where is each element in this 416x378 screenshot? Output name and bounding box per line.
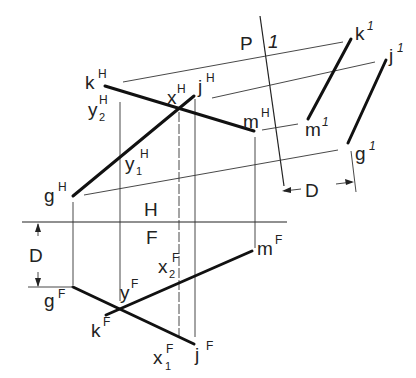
svg-text:m: m: [257, 238, 273, 259]
svg-text:g: g: [355, 143, 366, 164]
svg-text:g: g: [44, 290, 55, 311]
svg-text:j: j: [194, 344, 199, 365]
svg-text:1: 1: [136, 165, 142, 177]
fold-label-p: P: [240, 33, 253, 54]
dimension-d-aux-label: D: [305, 180, 319, 201]
line-k-m-auxiliary-view: [308, 39, 351, 119]
svg-text:F: F: [58, 287, 65, 301]
svg-text:k: k: [85, 72, 95, 93]
label-m-f: m F: [257, 233, 282, 259]
svg-text:y: y: [88, 99, 98, 120]
fold-label-1: 1: [268, 31, 279, 52]
svg-text:j: j: [197, 76, 202, 97]
dimension-d-aux: D: [282, 151, 356, 201]
svg-text:H: H: [99, 93, 108, 107]
descriptive-geometry-diagram: D D H F P 1 k H y 2 H x H j H y 1 H m H …: [0, 0, 416, 378]
svg-text:F: F: [172, 251, 179, 265]
label-g-h: g H: [44, 180, 67, 206]
dimension-d-front-label: D: [29, 245, 43, 266]
svg-text:H: H: [261, 106, 270, 120]
label-k-f: k F: [91, 315, 110, 341]
svg-text:y: y: [125, 153, 135, 174]
label-j-1: j 1: [388, 41, 404, 66]
label-k-1: k 1: [355, 19, 374, 44]
svg-text:F: F: [166, 342, 173, 356]
svg-text:1: 1: [367, 19, 374, 33]
svg-text:y: y: [120, 282, 130, 303]
fold-label-f: F: [146, 227, 158, 248]
svg-text:m: m: [305, 119, 321, 140]
label-j-h: j H: [197, 71, 215, 97]
label-y2-h: y 2 H: [88, 93, 108, 123]
svg-text:F: F: [103, 315, 110, 329]
svg-text:F: F: [131, 277, 138, 291]
svg-text:x: x: [158, 256, 168, 277]
svg-text:x: x: [167, 87, 177, 108]
svg-text:2: 2: [169, 268, 175, 280]
svg-text:F: F: [206, 339, 213, 353]
svg-text:1: 1: [369, 139, 376, 153]
svg-text:H: H: [140, 147, 149, 161]
svg-text:g: g: [44, 185, 55, 206]
svg-text:2: 2: [99, 111, 105, 123]
svg-text:1: 1: [397, 41, 404, 55]
svg-text:H: H: [177, 82, 186, 96]
label-j-f: j F: [194, 339, 213, 365]
label-m-h: m H: [243, 106, 270, 132]
label-x2-f: x 2 F: [158, 251, 179, 280]
svg-text:1: 1: [165, 360, 171, 372]
svg-text:k: k: [355, 23, 365, 44]
fold-label-h: H: [144, 199, 158, 220]
svg-text:H: H: [206, 71, 215, 85]
dimension-d-front: D: [28, 223, 73, 287]
svg-text:m: m: [243, 111, 259, 132]
projection-lines-h-to-f: [73, 99, 255, 340]
line-g-j-auxiliary-view: [348, 60, 386, 143]
svg-text:1: 1: [322, 115, 329, 129]
svg-text:F: F: [275, 233, 282, 247]
svg-text:H: H: [98, 67, 107, 81]
label-g-f: g F: [44, 287, 65, 311]
label-m-1: m 1: [305, 115, 329, 140]
label-g-1: g 1: [355, 139, 376, 164]
label-k-h: k H: [85, 67, 107, 93]
svg-text:x: x: [153, 347, 163, 368]
svg-text:H: H: [58, 180, 67, 194]
label-x1-f: x 1 F: [153, 342, 173, 372]
svg-text:k: k: [91, 320, 101, 341]
svg-text:j: j: [388, 45, 393, 66]
label-y-f: y F: [120, 277, 138, 303]
